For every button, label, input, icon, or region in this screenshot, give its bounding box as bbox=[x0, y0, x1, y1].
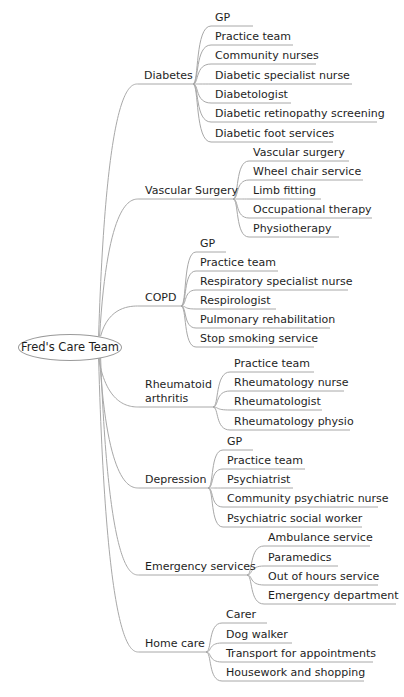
child-node-label[interactable]: Wheel chair service bbox=[253, 165, 361, 178]
root-branch-connector bbox=[101, 306, 139, 336]
child-node-label[interactable]: Rheumatology physio bbox=[234, 415, 354, 428]
branch-child-connector bbox=[193, 26, 211, 84]
child-node-label[interactable]: Diabetic retinopathy screening bbox=[215, 107, 385, 120]
child-node-label[interactable]: Limb fitting bbox=[253, 184, 316, 197]
child-node-label[interactable]: Emergency department bbox=[268, 589, 399, 602]
branch-label[interactable]: Diabetes bbox=[144, 69, 193, 82]
child-node-label[interactable]: Paramedics bbox=[268, 551, 331, 564]
branch-child-connector bbox=[208, 488, 223, 527]
branch-label[interactable]: arthritis bbox=[145, 392, 188, 405]
child-node-label[interactable]: Out of hours service bbox=[268, 570, 379, 583]
branch-label[interactable]: Vascular Surgery bbox=[145, 184, 238, 197]
child-node-label[interactable]: GP bbox=[200, 237, 215, 250]
child-node-label[interactable]: Psychiatric social worker bbox=[227, 512, 362, 525]
child-node-label[interactable]: GP bbox=[227, 435, 242, 448]
branch-child-connector bbox=[193, 84, 211, 142]
child-node-label[interactable]: Practice team bbox=[234, 357, 310, 370]
branch-child-connector bbox=[213, 372, 230, 407]
branch-label[interactable]: Emergency services bbox=[145, 560, 256, 573]
branch-label[interactable]: Home care bbox=[145, 637, 205, 650]
root-branch-connector bbox=[99, 358, 139, 407]
child-node-label[interactable]: Practice team bbox=[227, 454, 303, 467]
child-node-label[interactable]: Diabetic foot services bbox=[215, 127, 334, 140]
child-node-label[interactable]: Transport for appointments bbox=[226, 647, 376, 660]
mind-map-canvas: Fred's Care Team DiabetesGPPractice team… bbox=[0, 0, 404, 697]
child-node-label[interactable]: Community psychiatric nurse bbox=[227, 492, 389, 505]
branch-child-connector bbox=[206, 652, 222, 681]
child-node-label[interactable]: Occupational therapy bbox=[253, 203, 372, 216]
root-node-label: Fred's Care Team bbox=[21, 340, 119, 354]
branch-child-connector bbox=[206, 623, 222, 652]
branch-child-connector bbox=[247, 575, 264, 604]
root-branch-connector bbox=[100, 358, 139, 488]
branch-child-connector bbox=[181, 306, 196, 347]
root-node[interactable]: Fred's Care Team bbox=[18, 334, 122, 361]
child-node-label[interactable]: Dog walker bbox=[226, 628, 288, 641]
child-node-label[interactable]: Stop smoking service bbox=[200, 332, 318, 345]
child-node-label[interactable]: Housework and shopping bbox=[226, 666, 365, 679]
child-node-label[interactable]: Rheumatology nurse bbox=[234, 376, 349, 389]
child-node-label[interactable]: Psychiatrist bbox=[227, 473, 290, 486]
root-branch-connector bbox=[99, 358, 139, 652]
child-node-label[interactable]: Practice team bbox=[200, 256, 276, 269]
root-branch-connector bbox=[99, 84, 138, 336]
child-node-label[interactable]: Carer bbox=[226, 608, 256, 621]
child-node-label[interactable]: GP bbox=[215, 11, 230, 24]
child-node-label[interactable]: Vascular surgery bbox=[253, 146, 345, 159]
child-node-label[interactable]: Diabetologist bbox=[215, 88, 288, 101]
branch-label[interactable]: Depression bbox=[145, 473, 207, 486]
child-node-label[interactable]: Diabetic specialist nurse bbox=[215, 69, 350, 82]
child-node-label[interactable]: Ambulance service bbox=[268, 531, 373, 544]
child-node-label[interactable]: Physiotherapy bbox=[253, 222, 331, 235]
branch-label[interactable]: Rheumatoid bbox=[145, 378, 212, 391]
branch-child-connector bbox=[206, 643, 222, 652]
child-node-label[interactable]: Practice team bbox=[215, 30, 291, 43]
root-branch-connector bbox=[100, 199, 139, 336]
branch-child-connector bbox=[213, 391, 230, 407]
child-node-label[interactable]: Respiratory specialist nurse bbox=[200, 275, 352, 288]
child-node-label[interactable]: Rheumatologist bbox=[234, 395, 321, 408]
root-branch-connector bbox=[101, 358, 139, 575]
child-node-label[interactable]: Respirologist bbox=[200, 294, 271, 307]
branch-label[interactable]: COPD bbox=[145, 291, 176, 304]
child-node-label[interactable]: Community nurses bbox=[215, 49, 319, 62]
branch-child-connector bbox=[247, 575, 264, 585]
child-node-label[interactable]: Pulmonary rehabilitation bbox=[200, 313, 335, 326]
